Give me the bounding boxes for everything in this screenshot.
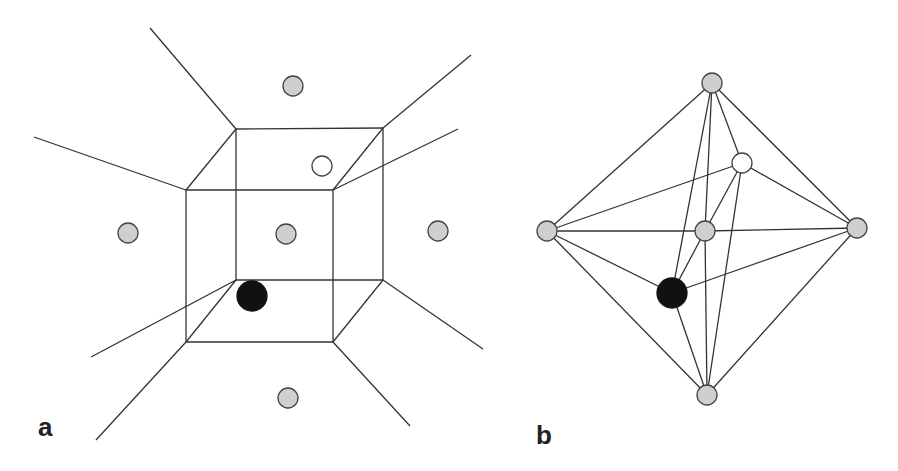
bond-line-left-black: [547, 231, 672, 293]
edge-line: [236, 128, 383, 129]
bond-line-top-white: [712, 83, 742, 163]
bond-line-top-left: [547, 83, 712, 231]
edge-line: [91, 280, 236, 357]
edge-line: [383, 55, 471, 128]
bond-line-right-bottom: [707, 228, 857, 395]
edge-line: [333, 129, 458, 190]
edge-line: [186, 280, 236, 342]
edge-line: [150, 28, 236, 129]
panel-label-b: b: [536, 422, 552, 448]
atom-gray-icon: [276, 224, 296, 244]
edge-line: [383, 280, 483, 349]
atom-gray-icon: [847, 218, 867, 238]
bond-line-left-white: [547, 163, 742, 231]
bond-line-bottom-black: [672, 293, 707, 395]
panel-b-octahedron-diagram: [537, 73, 867, 405]
atom-gray-icon: [697, 385, 717, 405]
atom-white-icon: [732, 153, 752, 173]
bond-line-bottom-center: [705, 231, 707, 395]
atom-gray-icon: [537, 221, 557, 241]
edge-line: [333, 280, 383, 342]
diagram-canvas: [0, 0, 898, 471]
edge-line: [333, 342, 410, 426]
atom-gray-icon: [695, 221, 715, 241]
bond-line-right-white: [742, 163, 857, 228]
atom-gray-icon: [278, 388, 298, 408]
panel-label-a: a: [38, 414, 52, 440]
atom-white-icon: [312, 156, 332, 176]
edge-line: [34, 137, 186, 190]
atom-gray-icon: [118, 223, 138, 243]
atom-black-icon: [657, 278, 687, 308]
bond-line-top-right: [712, 83, 857, 228]
atom-black-icon: [237, 281, 267, 311]
atom-gray-icon: [283, 76, 303, 96]
atom-gray-icon: [428, 221, 448, 241]
bond-line-left-bottom: [547, 231, 707, 395]
edge-line: [96, 342, 186, 440]
bond-line-right-center: [705, 228, 857, 231]
bond-line-top-center: [705, 83, 712, 231]
edge-line: [186, 129, 236, 190]
edge-line: [333, 128, 383, 190]
atom-gray-icon: [702, 73, 722, 93]
panel-a-cube-diagram: [34, 28, 483, 440]
